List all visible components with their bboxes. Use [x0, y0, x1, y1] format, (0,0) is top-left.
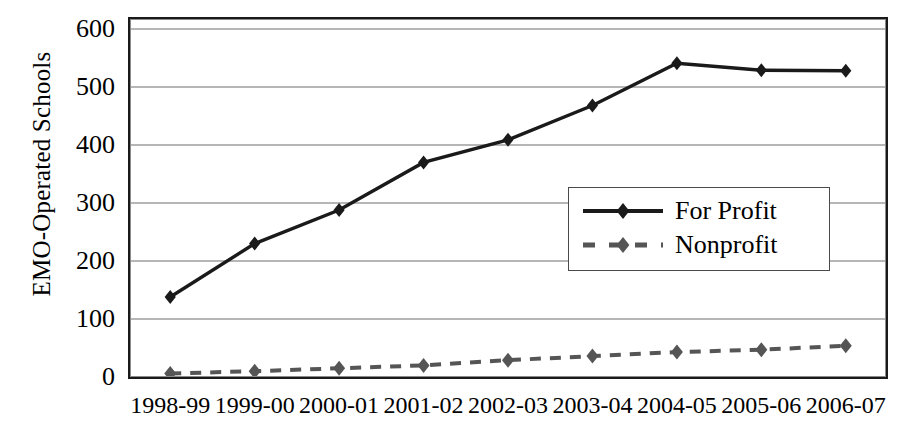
- x-axis-tick-labels: 1998-991999-002000-012001-022002-032003-…: [110, 392, 900, 432]
- legend-item: Nonprofit: [579, 228, 819, 262]
- x-tick-label: 2004-05: [637, 392, 717, 419]
- data-point-marker: [617, 203, 630, 219]
- y-tick-label: 100: [15, 306, 115, 332]
- x-tick-label: 1999-00: [215, 392, 295, 419]
- chart-legend: For ProfitNonprofit: [568, 187, 830, 271]
- x-tick-label: 2002-03: [468, 392, 548, 419]
- x-tick-label: 2006-07: [806, 392, 886, 419]
- y-tick-label: 600: [15, 16, 115, 42]
- x-tick-label: 2003-04: [552, 392, 632, 419]
- legend-label: For Profit: [667, 198, 777, 224]
- y-tick-label: 500: [15, 74, 115, 100]
- chart-figure: EMO-Operated Schools 0100200300400500600…: [0, 0, 902, 435]
- data-point-marker: [617, 237, 630, 253]
- x-tick-label: 2000-01: [299, 392, 379, 419]
- y-tick-label: 200: [15, 248, 115, 274]
- y-tick-label: 400: [15, 132, 115, 158]
- y-tick-label: 300: [15, 190, 115, 216]
- legend-swatch-for-profit: [579, 199, 667, 223]
- y-axis-tick-labels: 0100200300400500600: [10, 0, 115, 435]
- legend-swatch-nonprofit: [579, 233, 667, 257]
- x-tick-label: 2005-06: [721, 392, 801, 419]
- y-tick-label: 0: [15, 364, 115, 390]
- x-tick-label: 1998-99: [130, 392, 210, 419]
- x-tick-label: 2001-02: [384, 392, 464, 419]
- legend-label: Nonprofit: [667, 232, 778, 258]
- legend-item: For Profit: [579, 194, 819, 228]
